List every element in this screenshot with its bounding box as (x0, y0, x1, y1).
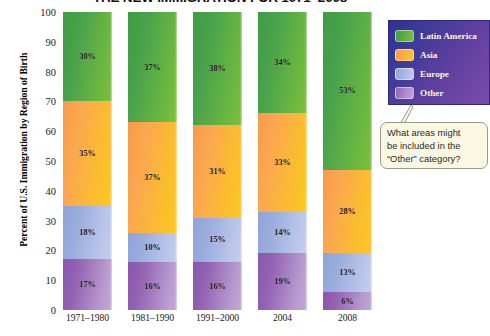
plot-area: 17%18%35%30%16%10%37%37%16%15%31%38%19%1… (60, 12, 378, 310)
y-tick-label: 60 (26, 126, 56, 137)
x-tick-label: 2004 (251, 312, 315, 323)
bar-segment-label: 35% (79, 149, 95, 158)
y-tick-label: 90 (26, 36, 56, 47)
y-tick-label: 50 (26, 156, 56, 167)
bar-segment[interactable]: 16% (128, 262, 177, 310)
bar-segment-label: 18% (79, 228, 95, 237)
legend: Latin AmericaAsiaEuropeOther (388, 20, 490, 105)
bar-segment-label: 33% (274, 158, 290, 167)
bar-segment[interactable]: 53% (323, 12, 372, 170)
legend-item[interactable]: Latin America (395, 26, 489, 45)
legend-swatch-icon (395, 49, 414, 61)
legend-label: Latin America (420, 31, 477, 41)
legend-label: Asia (420, 50, 437, 60)
chart-title: THE NEW IMMIGRATION FOR 1971–2008 (60, 0, 380, 2)
callout-text: What areas mightbe included in the“Other… (387, 126, 482, 166)
bar-segment[interactable]: 37% (128, 122, 177, 232)
bar-column[interactable]: 17%18%35%30% (63, 12, 112, 310)
y-tick-label: 70 (26, 96, 56, 107)
legend-swatch-icon (395, 30, 414, 42)
bar-segment-label: 37% (144, 173, 160, 182)
bar-segment[interactable]: 14% (258, 212, 307, 254)
bar-segment-label: 30% (79, 52, 95, 61)
bar-segment-label: 34% (274, 58, 290, 67)
bar-segment[interactable]: 10% (128, 233, 177, 263)
legend-swatch-icon (395, 68, 414, 80)
bar-segment[interactable]: 15% (193, 218, 242, 263)
bar-segment-label: 10% (144, 243, 160, 252)
x-tick-label: 1971–1980 (56, 312, 120, 323)
bar-segment[interactable]: 37% (128, 12, 177, 122)
bar-segment-label: 19% (274, 277, 290, 286)
callout-text-line: “Other” category? (387, 152, 482, 165)
callout-text-line: be included in the (387, 139, 482, 152)
callout-tail-icon (398, 104, 414, 124)
bar-segment-label: 53% (339, 86, 355, 95)
bar-segment-label: 17% (79, 280, 95, 289)
bar-segment[interactable]: 31% (193, 125, 242, 217)
legend-swatch-icon (395, 87, 414, 99)
bar-segment-label: 6% (341, 297, 353, 306)
callout-bubble: What areas mightbe included in the“Other… (380, 122, 488, 169)
legend-item[interactable]: Asia (395, 45, 489, 64)
bar-segment-label: 15% (209, 235, 225, 244)
bar-segment-label: 14% (274, 228, 290, 237)
y-tick-label: 100 (26, 7, 56, 18)
legend-item[interactable]: Other (395, 83, 489, 102)
bar-segment[interactable]: 18% (63, 206, 112, 260)
x-tick-label: 1991–2000 (186, 312, 250, 323)
bar-column[interactable]: 19%14%33%34% (258, 12, 307, 310)
y-axis-ticks: 1009080706050403020100 (26, 12, 56, 312)
bar-segment[interactable]: 17% (63, 259, 112, 310)
y-tick-label: 40 (26, 185, 56, 196)
y-tick-label: 10 (26, 275, 56, 286)
bar-segment[interactable]: 33% (258, 113, 307, 211)
bar-segment[interactable]: 16% (193, 262, 242, 310)
x-tick-label: 1981–1990 (121, 312, 185, 323)
y-tick-label: 30 (26, 215, 56, 226)
bar-segment-label: 28% (339, 207, 355, 216)
x-axis-labels: 1971–19801981–19901991–200020042008 (60, 312, 378, 328)
bar-segment[interactable]: 30% (63, 12, 112, 101)
bar-segment-label: 37% (144, 63, 160, 72)
bar-column[interactable]: 16%10%37%37% (128, 12, 177, 310)
legend-label: Other (420, 88, 443, 98)
callout-text-line: What areas might (387, 126, 482, 139)
bar-segment-label: 16% (209, 282, 225, 291)
bar-column[interactable]: 6%13%28%53% (323, 12, 372, 310)
bar-segment-label: 31% (209, 167, 225, 176)
bar-column[interactable]: 16%15%31%38% (193, 12, 242, 310)
bar-segment[interactable]: 13% (323, 253, 372, 292)
bar-segment-label: 16% (144, 282, 160, 291)
bar-segment-label: 13% (339, 268, 355, 277)
y-tick-label: 80 (26, 66, 56, 77)
y-tick-label: 20 (26, 245, 56, 256)
bar-segment[interactable]: 38% (193, 12, 242, 125)
legend-item[interactable]: Europe (395, 64, 489, 83)
immigration-stacked-bar-chart: THE NEW IMMIGRATION FOR 1971–2008 Percen… (0, 0, 490, 336)
x-tick-label: 2008 (316, 312, 380, 323)
legend-label: Europe (420, 69, 449, 79)
bar-segment[interactable]: 28% (323, 170, 372, 253)
bar-segment[interactable]: 19% (258, 253, 307, 310)
bar-segment[interactable]: 34% (258, 12, 307, 113)
bar-segment-label: 38% (209, 64, 225, 73)
bar-segment[interactable]: 6% (323, 292, 372, 310)
y-tick-label: 0 (26, 305, 56, 316)
bar-segment[interactable]: 35% (63, 101, 112, 205)
